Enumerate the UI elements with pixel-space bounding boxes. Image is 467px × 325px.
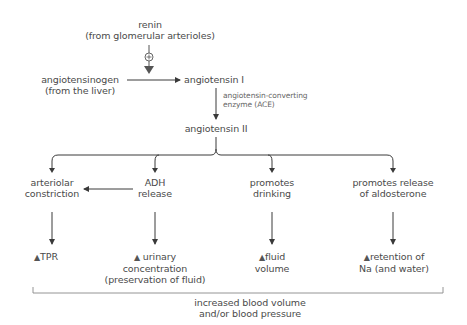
- ace-enzyme-label: angiotensin-converting enzyme (ACE): [223, 91, 307, 109]
- outcome-fluid-volume: ▲fluid volume: [250, 251, 294, 274]
- summary-bracket: [33, 287, 443, 293]
- angiotensinogen-label: angiotensinogen (from the liver): [36, 74, 124, 96]
- outcome-sodium-retention: ▲retention of Na (and water): [353, 251, 435, 274]
- angiotensin-ii-label: angiotensin II: [176, 123, 256, 134]
- effect-promotes-drinking: promotes drinking: [237, 177, 307, 199]
- outcome-urinary-concentration: ▲ urinary concentration (preservation of…: [100, 251, 210, 285]
- renin-arrow: [144, 45, 154, 74]
- effect-adh-release: ADH release: [130, 177, 180, 199]
- effect-arrows: [52, 212, 393, 244]
- effect-arteriolar-constriction: arteriolar constriction: [17, 177, 87, 199]
- effect-aldosterone-release: promotes release of aldosterone: [343, 177, 443, 199]
- angiotensin-i-label: angiotensin I: [184, 74, 252, 85]
- branch-brace: [52, 137, 393, 170]
- renin-label: renin (from glomerular arterioles): [85, 19, 215, 41]
- diagram-lines: [0, 0, 467, 325]
- increase-triangle-icon: ▲: [134, 253, 140, 262]
- summary-label: increased blood volume and/or blood pres…: [175, 297, 325, 319]
- outcome-tpr: ▲TPR: [34, 251, 58, 263]
